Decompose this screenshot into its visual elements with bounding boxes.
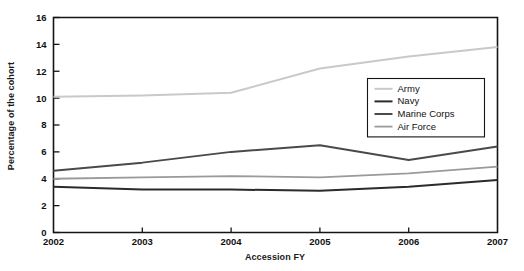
legend-label-marine-corps: Marine Corps — [398, 108, 455, 119]
x-tick-label: 2002 — [43, 236, 64, 247]
legend-label-army: Army — [398, 83, 420, 94]
series-line-navy — [54, 180, 498, 191]
y-tick-label: 16 — [36, 12, 47, 23]
x-tick-label-group: 200220032004200520062007 — [43, 236, 508, 247]
plot-area: 0246810121416 200220032004200520062007 A… — [0, 0, 524, 271]
series-line-air-force — [54, 167, 498, 179]
y-tick-label-group: 0246810121416 — [36, 12, 47, 238]
line-chart: Percentage of the cohort Accession FY 02… — [0, 0, 524, 271]
y-tick-label: 14 — [36, 39, 47, 50]
legend-label-navy: Navy — [398, 95, 420, 106]
y-tick-label: 8 — [41, 119, 46, 130]
chart-legend: ArmyNavyMarine CorpsAir Force — [368, 79, 485, 137]
y-tick-label: 2 — [41, 200, 46, 211]
y-tick-label: 4 — [41, 173, 47, 184]
series-line-marine-corps — [54, 145, 498, 171]
y-tick-label: 10 — [36, 93, 47, 104]
y-tick-label: 6 — [41, 146, 46, 157]
x-tick-label: 2007 — [487, 236, 508, 247]
x-tick-label: 2006 — [398, 236, 419, 247]
x-tick-label: 2003 — [132, 236, 153, 247]
x-tick-label: 2005 — [309, 236, 331, 247]
y-tick-mark-group — [54, 18, 60, 233]
x-tick-label: 2004 — [221, 236, 243, 247]
y-tick-label: 12 — [36, 66, 47, 77]
legend-label-air-force: Air Force — [398, 121, 437, 132]
